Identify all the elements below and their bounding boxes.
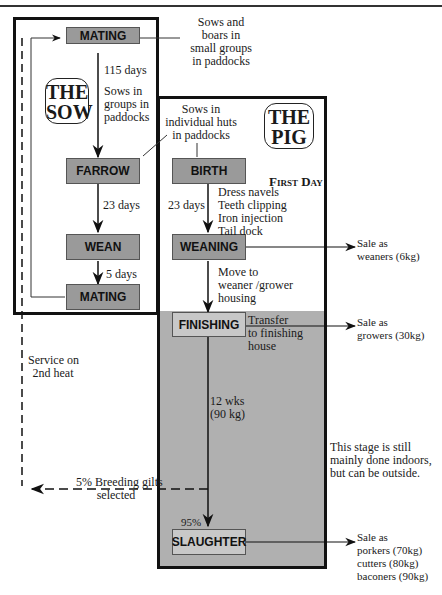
sow-section-badge: THE SOW xyxy=(45,78,89,124)
node-farrow: FARROW xyxy=(66,158,140,184)
annotation-pig-23-days: 23 days xyxy=(168,199,205,212)
annotation-move-to: Move to weaner /grower housing xyxy=(218,266,293,305)
node-slaughter: SLAUGHTER xyxy=(172,529,246,555)
node-birth: BIRTH xyxy=(172,158,246,184)
pig-section-badge: THE PIG xyxy=(264,103,314,149)
annotation-sow-23-days: 23 days xyxy=(103,199,140,212)
node-mating-top: MATING xyxy=(66,27,140,44)
sale-growers: Sale as growers (30kg) xyxy=(357,316,425,342)
annotation-sows-boars: Sows and boars in small groups in paddoc… xyxy=(180,16,262,68)
annotation-service: Service on 2nd heat xyxy=(28,354,78,380)
annotation-indoors-note: This stage is still mainly done indoors,… xyxy=(330,441,432,480)
annotation-12-wks: 12 wks (90 kg) xyxy=(210,395,245,421)
annotation-first-day-tasks: Dress navels Teeth clipping Iron injecti… xyxy=(218,186,287,238)
annotation-transfer: Transfer to finishing house xyxy=(248,314,303,353)
node-finishing: FINISHING xyxy=(172,312,246,337)
annotation-sows-groups: Sows in groups in paddocks xyxy=(104,85,149,124)
annotation-115-days: 115 days xyxy=(104,64,147,77)
annotation-breeding-gilts: 5% Breeding gilts selected xyxy=(76,476,156,502)
node-mating-bottom: MATING xyxy=(66,284,140,310)
annotation-95-pct: 95% xyxy=(181,516,201,529)
sale-weaners: Sale as weaners (6kg) xyxy=(357,237,420,263)
annotation-5-days: 5 days xyxy=(106,268,137,281)
annotation-sows-huts: Sows in individual huts in paddocks xyxy=(160,103,242,142)
node-wean: WEAN xyxy=(66,234,140,260)
sale-slaughter: Sale as porkers (70kg) cutters (80kg) ba… xyxy=(357,531,428,583)
